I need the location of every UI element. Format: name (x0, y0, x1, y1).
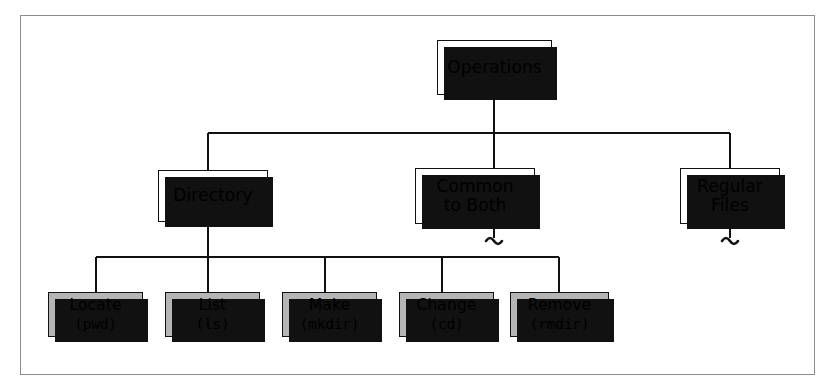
node-operations-label: Operations (447, 58, 541, 77)
operations-hierarchy-figure: Operations Directory Common to Both Regu… (0, 0, 833, 390)
node-list[interactable]: List (ls) (165, 292, 260, 337)
node-common-to-both-label-line2: to Both (444, 196, 507, 215)
node-regular-files-label-line1: Regular (697, 177, 763, 196)
node-regular-files[interactable]: Regular Files (680, 168, 780, 224)
node-directory-label: Directory (173, 186, 252, 205)
node-common-to-both-label-line1: Common (436, 177, 513, 196)
node-change-command: (cd) (429, 316, 463, 332)
node-remove-command: (rmdir) (530, 316, 590, 332)
node-locate[interactable]: Locate (pwd) (48, 292, 143, 337)
node-remove[interactable]: Remove (rmdir) (510, 292, 609, 337)
node-change[interactable]: Change (cd) (399, 292, 494, 337)
node-remove-label: Remove (528, 297, 592, 314)
node-operations[interactable]: Operations (437, 40, 552, 95)
node-list-command: (ls) (195, 316, 229, 332)
node-locate-command: (pwd) (74, 316, 117, 332)
node-locate-label: Locate (69, 297, 121, 314)
node-make-label: Make (309, 297, 350, 314)
node-common-to-both[interactable]: Common to Both (415, 168, 535, 224)
node-make[interactable]: Make (mkdir) (282, 292, 377, 337)
node-directory[interactable]: Directory (158, 170, 268, 222)
node-change-label: Change (417, 297, 477, 314)
node-list-label: List (199, 297, 227, 314)
node-regular-files-label-line2: Files (711, 196, 749, 215)
node-make-command: (mkdir) (300, 316, 360, 332)
